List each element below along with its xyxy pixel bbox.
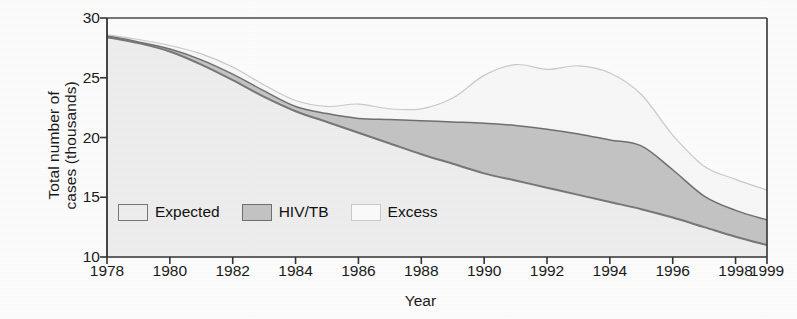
legend-label-expected: Expected (155, 203, 220, 221)
legend-swatch-hivtb (242, 204, 272, 221)
y-axis-tick-label: 20 (64, 129, 100, 147)
legend-item-hivtb: HIV/TB (242, 203, 329, 221)
legend-label-excess: Excess (388, 203, 438, 221)
chart-legend: Expected HIV/TB Excess (118, 203, 438, 221)
x-axis-tick-label: 1988 (404, 262, 438, 280)
chart-container: Total number of cases (thousands) 101520… (0, 0, 797, 319)
y-axis-tick-label: 15 (64, 188, 100, 206)
x-axis-tick-label: 1978 (90, 262, 124, 280)
x-axis-tick-label: 1980 (153, 262, 187, 280)
legend-item-expected: Expected (118, 203, 220, 221)
legend-swatch-expected (118, 204, 148, 221)
legend-label-hivtb: HIV/TB (279, 203, 329, 221)
y-axis-ticks (100, 18, 107, 257)
legend-item-excess: Excess (351, 203, 438, 221)
y-axis-tick-label: 30 (64, 9, 100, 27)
x-axis-tick-label: 1994 (593, 262, 627, 280)
x-axis-label: Year (0, 292, 797, 310)
legend-swatch-excess (351, 204, 381, 221)
x-axis-tick-label: 1996 (655, 262, 689, 280)
x-axis-tick-label: 1986 (341, 262, 375, 280)
x-axis-tick-label: 1998 (718, 262, 752, 280)
x-axis-tick-label: 1982 (215, 262, 249, 280)
y-axis-tick-label: 25 (64, 69, 100, 87)
x-axis-tick-label: 1999 (750, 262, 784, 280)
x-axis-tick-label: 1992 (530, 262, 564, 280)
x-axis-label-text: Year (405, 292, 436, 309)
x-axis-tick-label: 1990 (467, 262, 501, 280)
x-axis-tick-label: 1984 (278, 262, 312, 280)
